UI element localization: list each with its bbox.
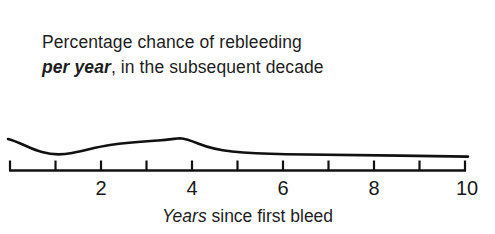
x-axis-tick-labels: 2 4 6 8 10	[0, 176, 495, 202]
x-axis-ticks	[10, 161, 465, 171]
chart-title: Percentage chance of rebleeding per year…	[42, 30, 462, 80]
x-axis-title-text: since first bleed	[207, 206, 333, 226]
plot-svg	[0, 120, 495, 182]
chart-title-line-1-text: Percentage chance of rebleeding	[42, 32, 302, 52]
chart-title-line-1: Percentage chance of rebleeding	[42, 30, 462, 55]
rebleeding-curve	[8, 138, 468, 156]
x-axis-tick-label-2: 2	[95, 176, 106, 200]
chart-title-line-2-text: , in the subsequent decade	[111, 57, 324, 77]
plot-area	[0, 120, 495, 182]
x-axis-tick-label-8: 8	[368, 176, 379, 200]
chart-title-emphasis: per year	[42, 57, 111, 77]
x-axis-tick-label-4: 4	[186, 176, 197, 200]
x-axis-tick-label-6: 6	[277, 176, 288, 200]
rebleeding-risk-figure: Percentage chance of rebleeding per year…	[0, 0, 495, 234]
x-axis-title: Years since first bleed	[0, 204, 495, 228]
chart-title-line-2: per year, in the subsequent decade	[42, 55, 462, 80]
x-axis-title-emphasis: Years	[162, 206, 207, 226]
x-axis-tick-label-10: 10	[456, 176, 478, 200]
